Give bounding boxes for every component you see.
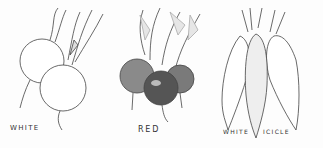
label-red: RED — [138, 125, 160, 134]
radish-illustration: WHITE RED WHITE ICICLE — [0, 0, 323, 148]
label-white: WHITE — [10, 124, 39, 132]
label-white-icicle-2: ICICLE — [263, 128, 290, 135]
label-white-icicle-1: WHITE — [223, 128, 249, 135]
radish-drawing — [0, 0, 323, 148]
